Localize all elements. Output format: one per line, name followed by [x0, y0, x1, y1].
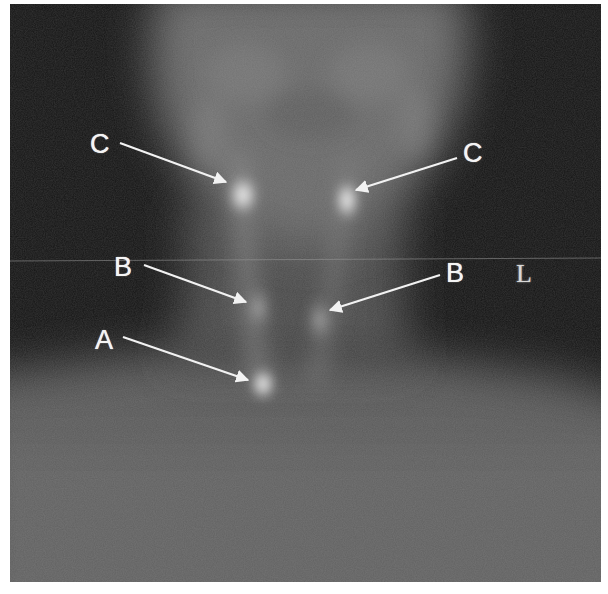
orientation-marker-left: L — [516, 261, 532, 287]
label-c-left: C — [90, 131, 110, 158]
scan-graphic — [10, 4, 601, 582]
label-b-left: B — [114, 254, 132, 281]
label-b-right: B — [446, 260, 464, 287]
label-c-right: C — [463, 140, 483, 167]
label-a: A — [95, 327, 113, 354]
scan-image: C C B B A L — [10, 4, 601, 582]
grain-overlay — [10, 4, 601, 582]
